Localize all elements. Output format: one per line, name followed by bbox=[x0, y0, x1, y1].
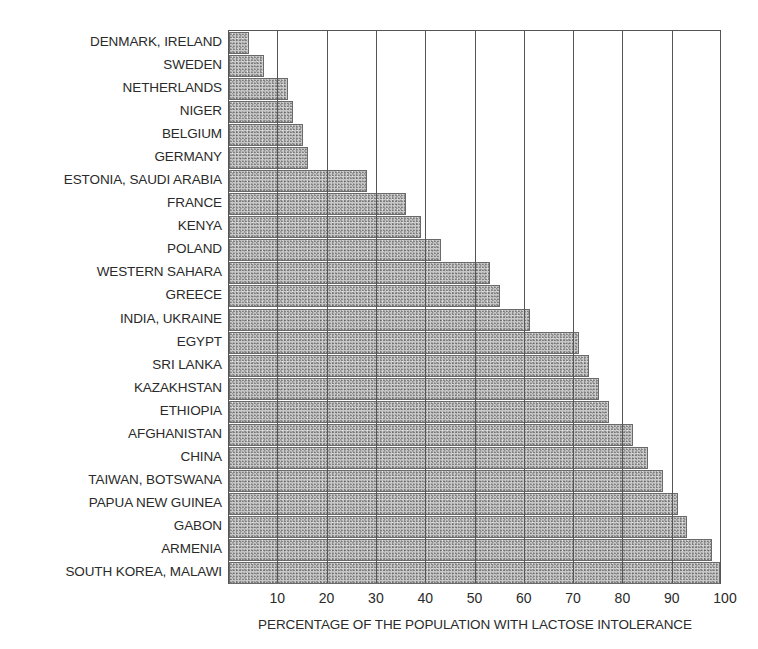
category-label: EGYPT bbox=[177, 334, 222, 349]
bar bbox=[229, 309, 530, 331]
bar bbox=[229, 239, 441, 261]
bar bbox=[229, 193, 406, 215]
category-label: NETHERLANDS bbox=[123, 80, 222, 95]
category-label: KAZAKHSTAN bbox=[134, 380, 222, 395]
bar bbox=[229, 55, 264, 77]
category-label: PAPUA NEW GUINEA bbox=[89, 495, 222, 510]
category-label: KENYA bbox=[178, 218, 222, 233]
gridline bbox=[573, 31, 574, 583]
category-label: GABON bbox=[174, 518, 222, 533]
x-tick-label: 50 bbox=[467, 590, 483, 606]
category-label: DENMARK, IRELAND bbox=[90, 34, 222, 49]
gridline bbox=[475, 31, 476, 583]
bar bbox=[229, 378, 599, 400]
category-label: SOUTH KOREA, MALAWI bbox=[65, 564, 222, 579]
gridline bbox=[622, 31, 623, 583]
bar bbox=[229, 262, 490, 284]
gridline bbox=[277, 31, 278, 583]
x-tick-label: 70 bbox=[565, 590, 581, 606]
category-label: SRI LANKA bbox=[152, 357, 222, 372]
category-label: TAIWAN, BOTSWANA bbox=[88, 472, 222, 487]
x-tick-label: 40 bbox=[417, 590, 433, 606]
bar bbox=[229, 539, 712, 561]
category-label: SWEDEN bbox=[163, 57, 222, 72]
x-tick-label: 100 bbox=[713, 590, 736, 606]
x-tick-label: 10 bbox=[270, 590, 286, 606]
category-label: NIGER bbox=[180, 103, 222, 118]
bar bbox=[229, 170, 367, 192]
x-tick-label: 60 bbox=[516, 590, 532, 606]
x-axis-title: PERCENTAGE OF THE POPULATION WITH LACTOS… bbox=[200, 617, 750, 632]
bar bbox=[229, 285, 500, 307]
lactose-intolerance-chart: DENMARK, IRELANDSWEDENNETHERLANDSNIGERBE… bbox=[0, 0, 758, 649]
bar bbox=[229, 101, 293, 123]
category-label: AFGHANISTAN bbox=[128, 426, 222, 441]
bar bbox=[229, 447, 648, 469]
bar bbox=[229, 216, 421, 238]
bar bbox=[229, 401, 609, 423]
bar bbox=[229, 332, 579, 354]
gridline bbox=[672, 31, 673, 583]
bar bbox=[229, 470, 663, 492]
bar bbox=[229, 147, 308, 169]
category-label: FRANCE bbox=[167, 195, 222, 210]
x-tick-label: 20 bbox=[319, 590, 335, 606]
bar bbox=[229, 124, 303, 146]
plot-area bbox=[228, 30, 721, 584]
bar bbox=[229, 516, 687, 538]
gridline bbox=[376, 31, 377, 583]
category-label: CHINA bbox=[180, 449, 222, 464]
category-label: GERMANY bbox=[154, 149, 222, 164]
x-tick-label: 80 bbox=[615, 590, 631, 606]
category-label: INDIA, UKRAINE bbox=[120, 311, 222, 326]
category-label: ESTONIA, SAUDI ARABIA bbox=[64, 172, 222, 187]
gridline bbox=[425, 31, 426, 583]
gridline bbox=[327, 31, 328, 583]
category-label: POLAND bbox=[167, 241, 222, 256]
category-label: ARMENIA bbox=[161, 541, 222, 556]
bar bbox=[229, 355, 589, 377]
category-label: BELGIUM bbox=[162, 126, 222, 141]
bar bbox=[229, 32, 249, 54]
category-label: ETHIOPIA bbox=[160, 403, 222, 418]
category-label: WESTERN SAHARA bbox=[97, 264, 222, 279]
category-label: GREECE bbox=[166, 287, 222, 302]
x-tick-label: 30 bbox=[368, 590, 384, 606]
gridline bbox=[524, 31, 525, 583]
bar bbox=[229, 78, 288, 100]
bar bbox=[229, 493, 678, 515]
x-tick-label: 90 bbox=[664, 590, 680, 606]
